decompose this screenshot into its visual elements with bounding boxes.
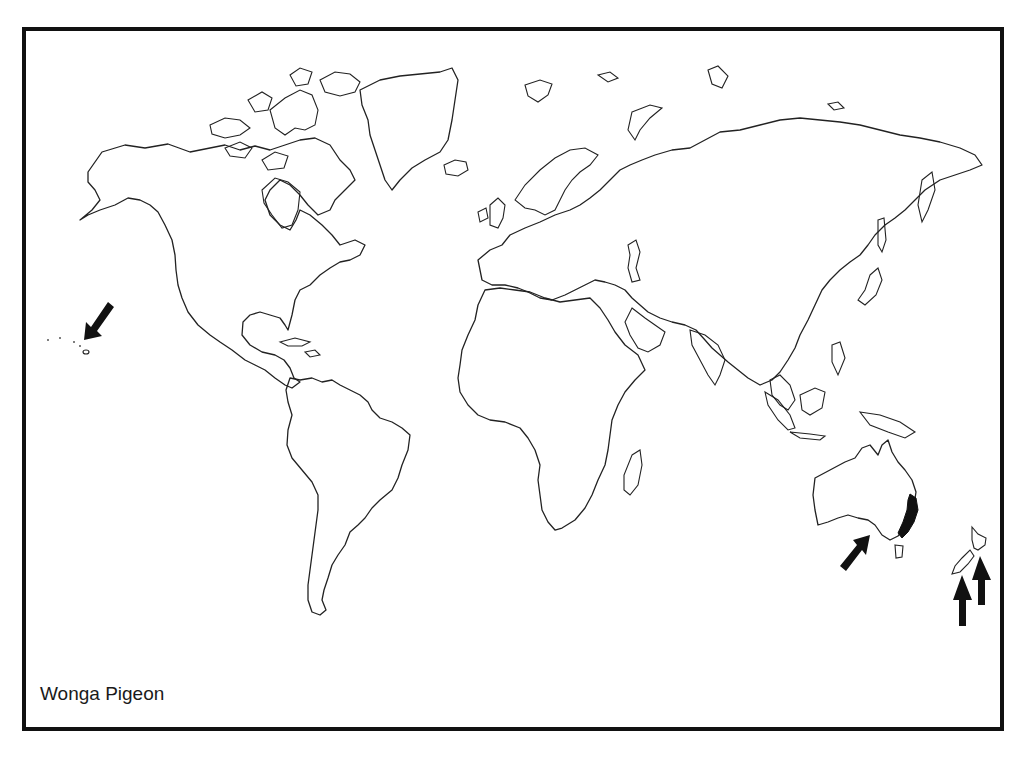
nz-south-island — [952, 550, 974, 574]
baffin-island — [270, 90, 318, 135]
severnaya-zemlya — [708, 66, 728, 88]
caspian-sea — [628, 240, 640, 282]
nz-north-island — [972, 527, 986, 550]
arrow-icon-nz-south — [953, 575, 972, 626]
sakhalin — [878, 218, 886, 252]
japan — [858, 268, 882, 305]
new-siberian — [828, 102, 844, 110]
india — [690, 330, 725, 385]
africa — [458, 288, 645, 530]
scandinavia — [515, 148, 598, 215]
hawaii-dot — [73, 341, 75, 343]
arctic-island — [210, 118, 250, 138]
arctic-island — [290, 68, 312, 86]
hawaii-dot — [59, 337, 61, 339]
tasmania — [895, 545, 903, 558]
franz-josef — [598, 72, 618, 82]
europe — [478, 118, 982, 385]
world-map — [0, 0, 1018, 759]
australia — [813, 440, 916, 540]
java — [790, 432, 825, 440]
north-america — [80, 138, 365, 388]
hawaii-dot — [47, 339, 49, 341]
philippines — [832, 342, 845, 375]
borneo — [800, 388, 825, 415]
great-britain — [490, 198, 505, 228]
new-guinea — [860, 412, 915, 438]
arabia — [625, 308, 665, 352]
iceland — [444, 160, 468, 176]
native-range-eastern-australia — [898, 494, 918, 538]
ireland — [478, 208, 488, 222]
south-america — [286, 378, 410, 615]
madagascar — [624, 450, 642, 495]
map-title: Wonga Pigeon — [40, 683, 164, 705]
sumatra — [765, 392, 795, 430]
novaya-zemlya — [628, 105, 662, 140]
hawaii — [83, 350, 89, 354]
greenland — [360, 68, 458, 190]
arrow-icon-nz-north — [972, 556, 991, 605]
arctic-island — [320, 72, 360, 96]
hispaniola — [305, 350, 320, 357]
hudson-bay — [262, 178, 300, 228]
hawaii-dot — [79, 345, 81, 347]
arrow-icon-south-australia — [840, 535, 870, 571]
arctic-island — [248, 92, 272, 112]
cuba — [280, 338, 310, 346]
arrow-icon-hawaii — [84, 302, 114, 340]
arctic-island — [262, 152, 288, 170]
svalbard — [525, 80, 552, 102]
kamchatka — [918, 172, 935, 222]
